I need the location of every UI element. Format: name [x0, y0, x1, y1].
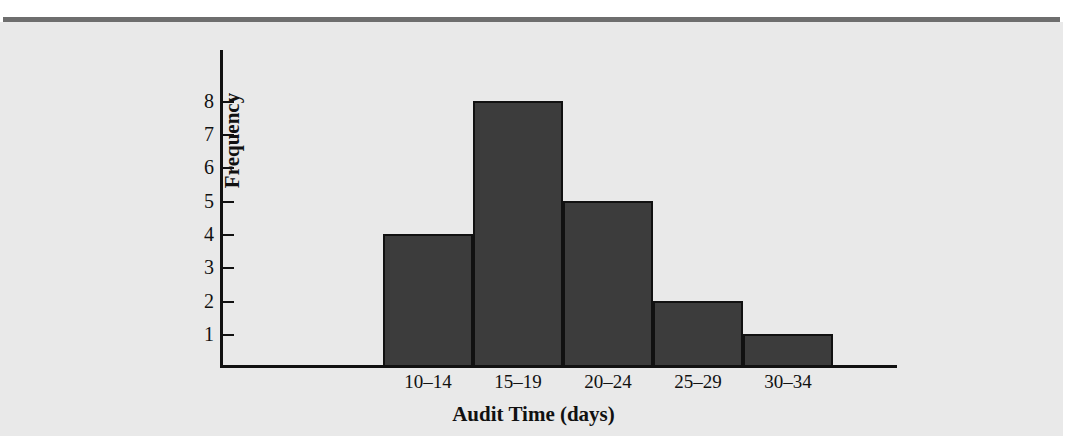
bar-20-24 — [563, 201, 653, 367]
y-tick-label-4: 4 — [188, 224, 214, 244]
y-tick-label-1: 1 — [188, 324, 214, 344]
y-tick-label-2: 2 — [188, 291, 214, 311]
plot-area: 1 2 3 4 5 6 7 8 10–14 15–19 20–24 25–29 … — [0, 0, 1067, 436]
y-tick-mark-1 — [223, 334, 234, 336]
y-tick-label-8: 8 — [188, 91, 214, 111]
bar-30-34 — [743, 334, 833, 367]
bar-10-14 — [383, 234, 473, 367]
y-tick-label-5: 5 — [188, 191, 214, 211]
y-tick-mark-2 — [223, 301, 234, 303]
bar-25-29 — [653, 301, 743, 367]
y-tick-mark-3 — [223, 267, 234, 269]
y-tick-label-6: 6 — [188, 157, 214, 177]
y-axis-title: Frequency — [222, 61, 243, 221]
x-axis-title: Audit Time (days) — [0, 404, 1067, 425]
histogram-figure: 1 2 3 4 5 6 7 8 10–14 15–19 20–24 25–29 … — [0, 0, 1067, 436]
x-tick-label-30-34: 30–34 — [733, 372, 843, 391]
y-tick-label-3: 3 — [188, 257, 214, 277]
y-tick-label-7: 7 — [188, 124, 214, 144]
y-tick-mark-4 — [223, 234, 234, 236]
bar-15-19 — [473, 101, 563, 367]
